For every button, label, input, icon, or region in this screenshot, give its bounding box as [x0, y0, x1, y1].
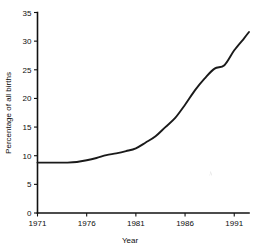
y-tick-label: 20	[23, 94, 32, 103]
y-tick-label: 35	[23, 9, 32, 18]
y-tick-label: 30	[23, 37, 32, 46]
y-axis-tick-labels: 05101520253035	[23, 9, 32, 219]
x-axis-title: Year	[122, 236, 139, 245]
y-tick-label: 0	[27, 209, 32, 218]
y-tick-label: 5	[27, 180, 32, 189]
x-tick-label: 1991	[225, 219, 243, 228]
line-chart: 05101520253035 19711976198119861991 Perc…	[0, 0, 255, 252]
x-tick-label: 1986	[176, 219, 194, 228]
x-axis-tick-labels: 19711976198119861991	[29, 219, 244, 228]
x-tick-label: 1971	[29, 219, 47, 228]
x-tick-label: 1976	[78, 219, 96, 228]
x-tick-label: 1981	[127, 219, 145, 228]
y-axis-title: Percentage of all births	[4, 72, 13, 154]
data-series-line	[38, 32, 250, 163]
y-tick-label: 10	[23, 152, 32, 161]
y-tick-label: 25	[23, 66, 32, 75]
chart-container: 05101520253035 19711976198119861991 Perc…	[0, 0, 255, 252]
y-tick-label: 15	[23, 123, 32, 132]
scan-artifact-speck	[210, 171, 213, 176]
